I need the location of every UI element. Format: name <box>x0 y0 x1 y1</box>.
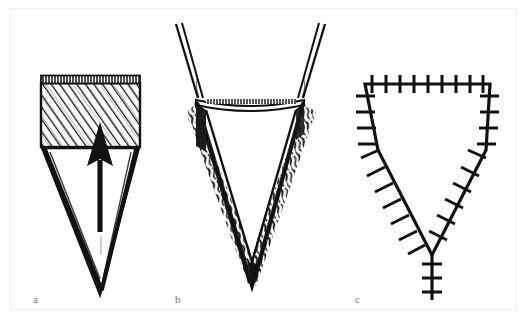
hatched-rectangle <box>41 76 140 148</box>
figure-root: a b c <box>0 0 528 330</box>
v-wedge-open <box>180 95 330 295</box>
v-wedge-outline <box>41 148 140 295</box>
panel-label-c: c <box>355 294 360 305</box>
figure-illustration <box>0 0 528 330</box>
panel-c-drawing <box>356 75 499 300</box>
suture-line-tail <box>422 253 442 300</box>
panel-label-b: b <box>175 294 181 305</box>
panel-label-a: a <box>33 294 38 305</box>
suture-path <box>365 84 490 255</box>
panel-a-drawing <box>41 76 140 296</box>
retractor-hook-left <box>176 23 203 98</box>
panel-b-drawing <box>176 23 330 295</box>
retractor-hook-right <box>298 23 325 98</box>
v-wedge-top-edge <box>196 99 304 111</box>
